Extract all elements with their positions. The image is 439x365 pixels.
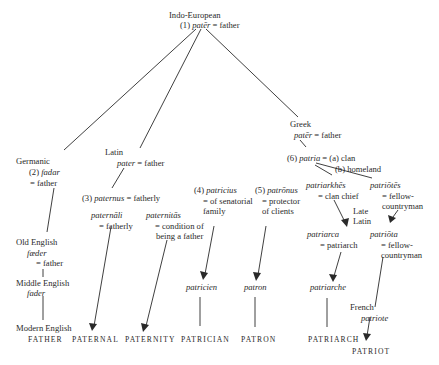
patronus-word: patrōnus bbox=[267, 185, 298, 195]
paternitas-gloss-2: being a father bbox=[156, 231, 203, 241]
result-patrician: Patrician bbox=[181, 335, 230, 345]
result-patron: Patron bbox=[241, 335, 276, 345]
patricius-num: (4) bbox=[194, 185, 204, 195]
late-latin-line1: Late bbox=[353, 206, 368, 216]
edge-latin-paternus bbox=[112, 168, 124, 188]
edge-germanic-oldenglish bbox=[47, 188, 54, 232]
patricius-entry: (4) patricius bbox=[194, 185, 237, 195]
arrowhead-patron bbox=[253, 272, 261, 281]
greek-word: patēr bbox=[294, 130, 312, 140]
arrowhead-paternity bbox=[141, 323, 149, 332]
patronus-entry: (5) patrōnus bbox=[255, 185, 298, 195]
germanic-word: fadar bbox=[41, 167, 60, 177]
latin-language: Latin bbox=[105, 147, 123, 157]
middleenglish-word: fader bbox=[27, 288, 45, 298]
patricius-word: patricius bbox=[206, 185, 237, 195]
edge-root-greek bbox=[206, 29, 298, 117]
paternali-word: paternāli bbox=[91, 210, 123, 220]
edge-root-latin bbox=[140, 29, 201, 148]
greek-language: Greek bbox=[290, 119, 311, 129]
patricius-gloss-2: family bbox=[203, 206, 225, 216]
oldenglish-word: fæder bbox=[27, 248, 47, 258]
arrowhead-patriarca bbox=[341, 218, 349, 227]
germanic-entry: (2) fadar bbox=[29, 167, 60, 177]
result-father: Father bbox=[28, 335, 63, 345]
result-patriarch: Patriarch bbox=[308, 335, 359, 345]
greek-entry: patēr = father bbox=[294, 130, 341, 140]
latin-gloss: = father bbox=[137, 158, 164, 168]
patriotes-word: patriōtēs bbox=[370, 180, 401, 190]
patriarca-gloss: = patriarch bbox=[320, 240, 358, 250]
paternus-gloss: = fatherly bbox=[126, 193, 160, 203]
arrowhead-patriot bbox=[363, 333, 371, 341]
modernenglish-language: Modern English bbox=[16, 323, 72, 333]
latin-word: pater bbox=[117, 158, 135, 168]
patria-gloss-b: (b) homeland bbox=[335, 164, 381, 174]
paternitas-word: paternitās bbox=[146, 210, 181, 220]
latin-entry: pater = father bbox=[117, 158, 164, 168]
edge-paternali-paternal bbox=[94, 227, 111, 326]
root-entry: (1) patēr = father bbox=[180, 20, 240, 30]
greek-gloss: = father bbox=[314, 130, 341, 140]
patriotes-gloss-1: = fellow- bbox=[382, 191, 414, 201]
germanic-gloss: = father bbox=[30, 178, 57, 188]
arrowhead-paternal bbox=[89, 323, 97, 331]
germanic-language: Germanic bbox=[16, 156, 50, 166]
edge-patriotes-patriota bbox=[393, 210, 398, 217]
patriota-gloss-2: countryman bbox=[381, 250, 422, 260]
edge-root-germanic bbox=[64, 29, 196, 150]
arrowhead-patriota bbox=[388, 215, 396, 223]
paternus-entry: (3) paternus = fatherly bbox=[82, 193, 160, 203]
patria-gloss-a: = (a) clan bbox=[322, 153, 355, 163]
patriarche-word: patriarche bbox=[310, 282, 346, 292]
patria-word: patria bbox=[299, 153, 320, 163]
germanic-num: (2) bbox=[29, 167, 39, 177]
patriotes-gloss-2: countryman bbox=[382, 201, 423, 211]
patriarkhes-gloss: = clan chief bbox=[318, 191, 359, 201]
edge-paternitas-paternity bbox=[146, 240, 167, 326]
paternali-gloss: = fatherly bbox=[99, 221, 133, 231]
patria-entry: (6) patria = (a) clan bbox=[287, 153, 355, 163]
arrowhead-patricien bbox=[200, 271, 208, 280]
patronus-gloss-2: of clients bbox=[262, 206, 294, 216]
late-latin-line2: Latin bbox=[353, 216, 371, 226]
root-gloss: = father bbox=[212, 20, 239, 30]
edge-patriarkhes-patriarca bbox=[334, 200, 345, 222]
patron-word: patron bbox=[244, 282, 267, 292]
patricien-word: patricien bbox=[186, 282, 217, 292]
patria-num: (6) bbox=[287, 153, 297, 163]
root-num: (1) bbox=[180, 20, 190, 30]
edge-patriota-patriot bbox=[375, 257, 383, 307]
paternus-word: paternus bbox=[94, 193, 124, 203]
oldenglish-gloss: = father bbox=[36, 258, 63, 268]
paternus-num: (3) bbox=[82, 193, 92, 203]
patriota-word: patriōta bbox=[370, 229, 398, 239]
oldenglish-language: Old English bbox=[16, 237, 57, 247]
french-word: patriote bbox=[361, 313, 388, 323]
edge-greek-patria bbox=[300, 140, 306, 147]
result-paternal: Paternal bbox=[72, 335, 119, 345]
patronus-num: (5) bbox=[255, 185, 265, 195]
edge-patriarca-patriarche bbox=[334, 252, 341, 276]
edge-patronus-patron bbox=[258, 226, 266, 275]
french-language: French bbox=[350, 302, 374, 312]
edge-patricius-patricien bbox=[205, 226, 214, 274]
result-paternity: Paternity bbox=[125, 335, 176, 345]
patricius-gloss-1: = of senatorial bbox=[203, 196, 253, 206]
paternitas-gloss-1: = condition of bbox=[155, 221, 204, 231]
result-patriot: Patriot bbox=[352, 347, 390, 357]
arrowhead-patriarche bbox=[329, 274, 337, 282]
patriarca-word: patriarca bbox=[307, 229, 339, 239]
patriota-gloss-1: = fellow- bbox=[381, 240, 413, 250]
patronus-gloss-1: = protector bbox=[262, 196, 300, 206]
patriarkhes-word: patriarkhēs bbox=[306, 180, 346, 190]
etymology-diagram: Indo-European (1) patēr = father Germani… bbox=[0, 0, 439, 365]
root-language: Indo-European bbox=[169, 10, 221, 20]
root-word: patēr bbox=[192, 20, 210, 30]
middleenglish-language: Middle English bbox=[16, 278, 69, 288]
